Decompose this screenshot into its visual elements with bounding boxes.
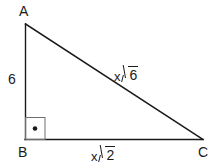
triangle-figure bbox=[0, 0, 221, 168]
geometry-diagram: A B C 6 x 6 x 2 bbox=[0, 0, 221, 168]
side-label-ac: x 6 bbox=[114, 65, 138, 83]
radical-sign-icon: 6 bbox=[121, 65, 139, 83]
side-label-ab: 6 bbox=[8, 72, 16, 86]
radical-expression-bc: x 2 bbox=[91, 145, 115, 163]
vertex-label-b: B bbox=[18, 145, 27, 159]
right-angle-dot-icon bbox=[33, 126, 38, 131]
side-label-bc: x 2 bbox=[91, 145, 115, 163]
vertex-label-c: C bbox=[198, 145, 208, 159]
radicand-bc: 2 bbox=[105, 146, 116, 163]
radical-expression-ac: x 6 bbox=[114, 65, 138, 83]
radicand-ac: 6 bbox=[128, 66, 139, 83]
vertex-label-a: A bbox=[19, 4, 28, 18]
radical-sign-icon: 2 bbox=[98, 145, 116, 163]
